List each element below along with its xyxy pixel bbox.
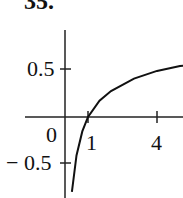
- x-tick-label-1: 1: [86, 132, 97, 154]
- x-tick-label-0: 0: [46, 124, 57, 146]
- data-curve: [72, 64, 183, 192]
- y-tick-label-pos: 0.5: [27, 58, 55, 80]
- y-tick-label-neg: − 0.5: [6, 152, 51, 174]
- chart: 35. 0.5 − 0.5 0 1 4: [0, 0, 183, 198]
- x-tick-label-4: 4: [151, 132, 162, 154]
